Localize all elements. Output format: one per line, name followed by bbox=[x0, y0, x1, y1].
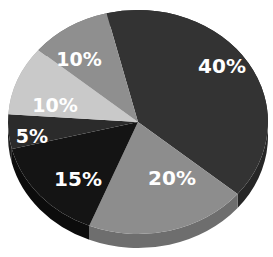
slice-label: 5% bbox=[16, 125, 48, 147]
slice-label: 15% bbox=[54, 167, 102, 191]
pie-chart: 40%20%15%5%10%10% bbox=[0, 0, 273, 257]
slice-label: 10% bbox=[32, 94, 77, 116]
slice-label: 10% bbox=[56, 48, 101, 70]
pie-slices bbox=[8, 10, 268, 234]
slice-label: 40% bbox=[198, 54, 246, 78]
slice-label: 20% bbox=[148, 166, 196, 190]
